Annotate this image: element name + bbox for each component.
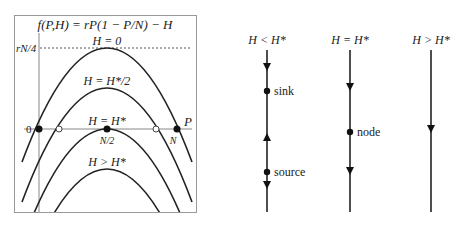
origin-label: 0 [26,123,32,135]
y-tick-rN4: rN/4 [16,42,37,54]
label-h-above: H > H* [87,155,125,169]
header-h-equal: H = H* [330,33,368,47]
arrow-down-icon [263,63,271,71]
equilibrium-node [104,126,111,133]
node-label: node [357,125,380,139]
sink-label: sink [274,84,294,98]
equilibrium-origin [36,126,43,133]
source-point [264,169,270,175]
equilibrium-half-high [153,126,159,132]
label-h0: H = 0 [92,34,122,48]
arrow-up-icon [263,133,271,141]
header-h-greater: H > H* [411,33,449,47]
arrow-down-icon [346,83,354,91]
arrow-down-icon [346,167,354,175]
source-label: source [274,165,305,179]
bifurcation-diagram: f(P,H) = rP(1 − P/N) − H rN/4 P 0 N/2 N … [0,0,462,225]
x-axis-label: P [183,114,192,129]
plot-title: f(P,H) = rP(1 − P/N) − H [38,17,173,32]
node-point [347,129,353,135]
header-h-less: H < H* [247,33,285,47]
curve-h-above [22,169,192,225]
equilibrium-half-low [56,126,62,132]
x-tick-n2: N/2 [99,135,114,146]
equilibrium-n [174,126,181,133]
sink-point [264,88,270,94]
x-tick-n: N [169,135,178,146]
arrow-down-icon [263,181,271,189]
label-h-half: H = H*/2 [83,74,131,88]
arrow-down-icon [427,125,435,133]
